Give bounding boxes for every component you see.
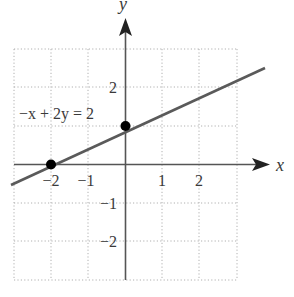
x-intercept-point: [46, 160, 56, 170]
axes: [14, 28, 262, 280]
y-tick-label: −2: [100, 233, 117, 250]
x-tick-label: 1: [158, 172, 166, 189]
y-axis-label: y: [117, 0, 127, 14]
x-tick-label: 2: [195, 172, 203, 189]
x-tick-label: −1: [77, 172, 94, 189]
y-tick-label: −1: [100, 195, 117, 212]
x-tick-label: −2: [42, 172, 59, 189]
y-intercept-point: [121, 121, 131, 131]
x-axis-label: x: [275, 155, 284, 175]
equation-label: −x + 2y = 2: [19, 105, 94, 123]
y-tick-label: 2: [109, 79, 117, 96]
coordinate-plane: x y −2 −1 1 2 2 −1 −2 −x + 2y = 2: [0, 0, 294, 297]
